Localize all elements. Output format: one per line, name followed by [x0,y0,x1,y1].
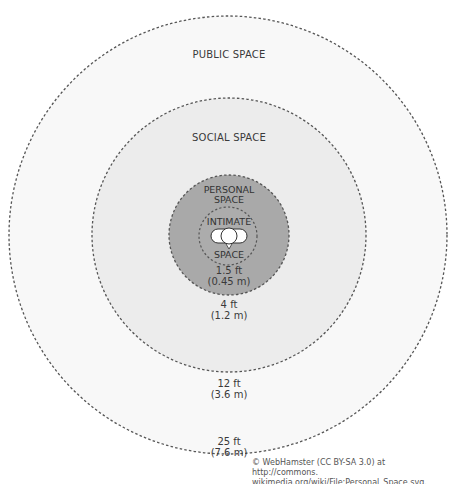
intimate-distance-ft: 1.5 ft [216,265,242,276]
intimate-space-title-line1: INTIMATE [207,216,251,227]
social-distance-ft: 12 ft [217,378,240,389]
social-space-title: SOCIAL SPACE [192,132,266,143]
attribution-credit: © WebHamster (CC BY-SA 3.0) at http://co… [252,458,452,484]
personal-distance-ft: 4 ft [221,299,238,310]
intimate-space-title-line2: SPACE [214,249,244,260]
personal-distance-m: (1.2 m) [211,310,248,321]
public-distance-m: (7.6 m) [211,447,248,458]
personal-space-title-line2: SPACE [214,194,244,205]
public-distance-ft: 25 ft [217,436,240,447]
public-space-title: PUBLIC SPACE [193,49,266,60]
personal-space-diagram: PUBLIC SPACE SOCIAL SPACE PERSONAL SPACE… [0,0,458,484]
credit-line-2: wikimedia.org/wiki/File:Personal_Space.s… [252,478,452,484]
social-distance-m: (3.6 m) [211,389,248,400]
credit-line-1: © WebHamster (CC BY-SA 3.0) at http://co… [252,458,452,478]
intimate-distance-m: (0.45 m) [208,276,251,287]
